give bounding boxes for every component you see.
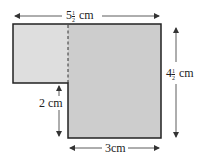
bottom-width-label: 3cm [103, 142, 128, 154]
top-width-label: 512 cm [64, 9, 96, 23]
top-width-unit: cm [79, 8, 94, 22]
top-width-fraction: 12 [72, 10, 75, 23]
right-height-fraction: 12 [172, 68, 175, 81]
step-height-label: 2 cm [37, 97, 65, 109]
right-height-label: 412 cm [164, 67, 196, 81]
right-height-unit: cm [179, 66, 194, 80]
right-section [68, 24, 161, 138]
left-section [13, 24, 68, 83]
